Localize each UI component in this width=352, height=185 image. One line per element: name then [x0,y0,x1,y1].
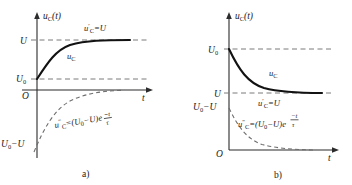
x-axis-arrowhead-b [332,147,339,153]
annotation-steady-state-b: u′C=U [258,97,281,109]
transient-exponent-b: −t τ [291,112,299,128]
y-axis-label-b: uC(t) [235,11,253,22]
caption-b: b) [274,170,282,181]
origin-label-a: O [22,91,29,101]
x-axis-arrowhead-a [146,87,153,93]
y-axis-arrowhead-b [226,12,232,19]
y-axis-label-a: uC(t) [43,11,61,22]
origin-label-b: O [216,149,223,159]
y-axis-arrowhead-a [34,12,40,19]
exponent-numerator-a: −t [103,110,110,118]
tick-label-U0-a: U0 [16,74,26,85]
transient-exponent-a: −t τ [103,110,113,127]
tick-label-U-b: U [214,89,222,99]
panel-a: uC(t) t U U0 O U0−U u′C=U [0,0,176,185]
tick-label-U-a: U [20,36,28,46]
annotation-transient-formula-b: u″C=(U0−U)e −t τ [238,112,299,130]
exponent-numerator-b: −t [291,112,297,119]
chart-b-svg: uC(t) t U0 U U0−U O uC [176,0,352,185]
annotation-curve-label-b: uC [269,68,278,79]
panel-b: uC(t) t U0 U U0−U O uC [176,0,352,185]
curve-uC-transient-b [229,108,316,150]
tick-label-U0-minus-U-b: U0−U [193,102,217,113]
transient-formula-text-a: u″C=(U0−U)e [54,111,104,131]
figure-container: uC(t) t U U0 O U0−U u′C=U [0,0,352,185]
tick-label-U0-b: U0 [208,45,218,56]
x-axis-label-b: t [328,153,331,163]
transient-formula-text-b: u″C=(U0−U)e [238,118,286,130]
caption-a: a) [82,169,89,180]
chart-a-svg: uC(t) t U U0 O U0−U u′C=U [0,0,176,185]
tick-label-U0-minus-U-a: U0−U [1,139,25,150]
exponent-denominator-a: τ [106,119,110,126]
exponent-denominator-b: τ [292,121,295,128]
annotation-transient-formula-a: u″C=(U0−U)e −t τ [54,110,114,131]
annotation-curve-label-a: uC [67,51,76,62]
curve-uC-b [229,49,322,93]
curve-uC-a [37,40,130,79]
x-axis-label-a: t [142,93,145,103]
annotation-steady-state-a: u′C=U [84,22,107,34]
